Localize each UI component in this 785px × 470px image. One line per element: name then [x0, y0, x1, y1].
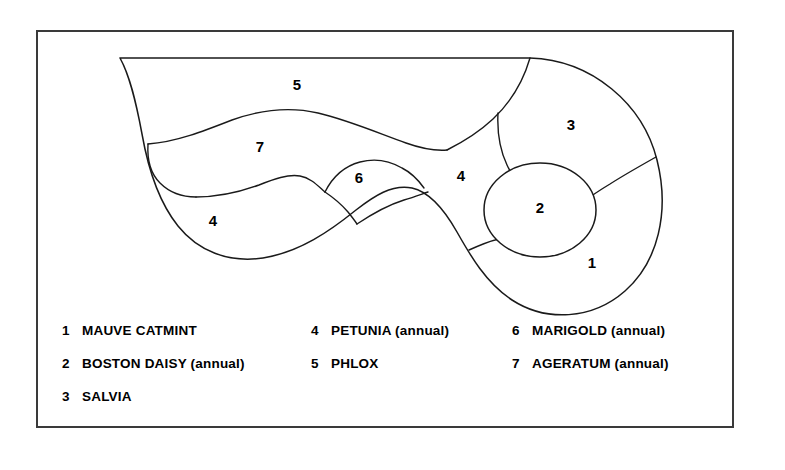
plot-number-4-left: 4 — [209, 212, 218, 229]
plot-number-7: 7 — [256, 138, 264, 155]
legend-item-label: PETUNIA (annual) — [331, 323, 449, 338]
plot-number-6: 6 — [355, 169, 363, 186]
legend-item-label: MARIGOLD (annual) — [532, 323, 665, 338]
plot-number-3: 3 — [567, 116, 575, 133]
legend-item-number: 6 — [512, 323, 520, 338]
legend-item-label: BOSTON DAISY (annual) — [82, 356, 245, 371]
legend-item-number: 2 — [62, 356, 70, 371]
legend-item-number: 7 — [512, 356, 520, 371]
legend-item-label: MAUVE CATMINT — [82, 323, 197, 338]
plot-number-1: 1 — [588, 254, 596, 271]
legend-item: 6 MARIGOLD (annual) — [512, 323, 665, 338]
legend-item-number: 4 — [311, 323, 319, 338]
legend-item: 7 AGERATUM (annual) — [512, 356, 669, 371]
plot-number-5: 5 — [293, 76, 301, 93]
garden-plan-figure: 1 2 3 4 5 6 7 4 1 MAUVE CATMINT 2 BOSTON… — [0, 0, 785, 470]
legend-item-label: PHLOX — [331, 356, 379, 371]
legend-item: 1 MAUVE CATMINT — [62, 323, 197, 338]
legend-item-number: 1 — [62, 323, 70, 338]
legend-item-label: SALVIA — [82, 389, 132, 404]
legend-item: 4 PETUNIA (annual) — [311, 323, 449, 338]
plot-number-4-right: 4 — [457, 167, 466, 184]
legend-item: 2 BOSTON DAISY (annual) — [62, 356, 245, 371]
legend-item-label: AGERATUM (annual) — [532, 356, 669, 371]
plot-number-2: 2 — [536, 199, 544, 216]
legend-item-number: 5 — [311, 356, 319, 371]
legend-item-number: 3 — [62, 389, 70, 404]
